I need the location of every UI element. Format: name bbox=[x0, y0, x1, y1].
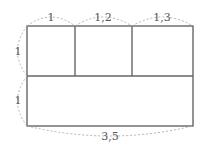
label-left-1: 1 bbox=[15, 45, 22, 58]
label-top-2: 1,2 bbox=[94, 11, 112, 24]
label-top-3: 1,3 bbox=[153, 11, 171, 24]
label-bottom: 3,5 bbox=[101, 130, 119, 143]
rectangle-diagram: 1 1,2 1,3 1 1 3,5 bbox=[0, 0, 205, 149]
label-top-1: 1 bbox=[48, 11, 55, 24]
diagram-canvas: 1 1,2 1,3 1 1 3,5 bbox=[0, 0, 205, 149]
label-left-2: 1 bbox=[15, 94, 22, 107]
